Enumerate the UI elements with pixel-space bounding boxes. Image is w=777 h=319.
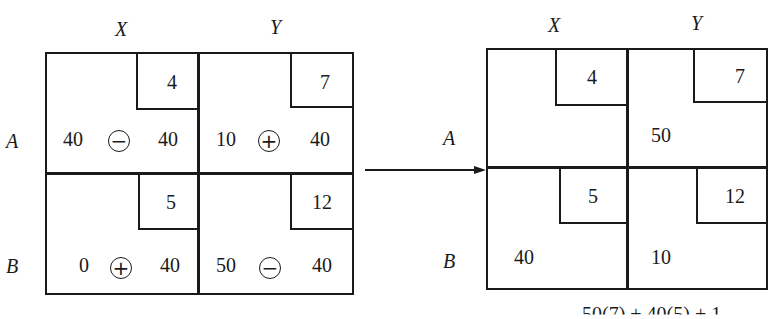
cost-formula-partial: 50(7) + 40(5) + 1 (582, 303, 721, 319)
left-row-label-b: B (6, 255, 18, 278)
right-row-label-b: B (443, 250, 455, 273)
minus-circle-icon: − (259, 257, 281, 279)
left-col-label-x: X (115, 18, 127, 41)
alloc-ay-before: 10 (216, 128, 236, 151)
alloc-ay: 50 (651, 124, 671, 147)
cost-by: 12 (725, 185, 745, 208)
plus-circle-icon: + (110, 257, 132, 279)
cost-box-ay (693, 48, 767, 103)
alloc-ax-before: 40 (63, 128, 83, 151)
alloc-bx: 40 (514, 246, 534, 269)
right-row-label-a: A (443, 127, 455, 150)
cost-by: 12 (312, 191, 332, 214)
cost-ay: 7 (320, 71, 330, 94)
minus-circle-icon: − (108, 130, 130, 152)
alloc-bx-after-value: 40 (160, 254, 180, 277)
alloc-ax-after: 40 (158, 128, 178, 151)
right-col-label-x: X (548, 14, 560, 37)
cost-bx: 5 (588, 185, 598, 208)
alloc-ay-after: 40 (310, 128, 330, 151)
alloc-by: 10 (651, 246, 671, 269)
left-row-label-a: A (6, 130, 18, 153)
left-col-label-y: Y (270, 16, 281, 39)
cost-ax: 4 (587, 66, 597, 89)
alloc-bx-before: 0 (79, 254, 89, 277)
right-col-label-y: Y (691, 12, 702, 35)
cost-ax: 4 (167, 71, 177, 94)
alloc-by-after: 40 (312, 254, 332, 277)
cost-bx: 5 (166, 191, 176, 214)
plus-circle-icon: + (258, 130, 280, 152)
cost-ay: 7 (735, 65, 745, 88)
alloc-by-before: 50 (216, 254, 236, 277)
